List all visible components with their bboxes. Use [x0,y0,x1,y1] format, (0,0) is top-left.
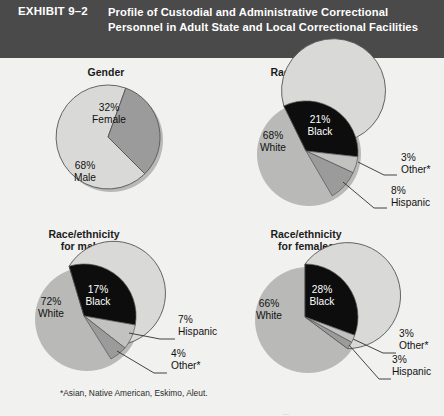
chart-race-females-title-line1: Race/ethnicity [240,228,372,240]
chart-race-males-pie [32,257,232,387]
label-other-name: Other* [401,164,430,176]
label-white-name: White [244,310,294,322]
chart-race-females: Race/ethnicity for females 66% White 28%… [240,228,440,393]
label-black-pct: 28% [298,284,346,296]
label-hispanic-pct: 7% [178,314,193,326]
label-white-pct: 68% [248,130,298,142]
label-other-pct: 3% [399,328,414,340]
label-male-pct: 68% [50,160,120,172]
label-female-pct: 32% [74,102,144,114]
label-female-name: Female [74,114,144,126]
label-other-name: Other* [171,360,200,372]
exhibit-header-band: EXHIBIT 9–2 Profile of Custodial and Adm… [0,0,444,58]
label-black-name: Black [298,296,346,308]
chart-race-males: Race/ethnicity for males 72% White 17% B… [18,228,218,388]
chart-race-males-title-line1: Race/ethnicity [18,228,150,240]
leader-line-hispanic [349,345,391,379]
label-black-pct: 21% [296,114,344,126]
label-hispanic-pct: 8% [391,185,406,197]
label-male-name: Male [50,172,120,184]
label-other-name: Other* [399,340,428,352]
chart-race-all: Race/ethnicity 68% White 21% Black 3% Ot… [240,66,440,226]
leader-line-other [358,162,397,175]
label-other-pct: 4% [171,348,186,360]
source-note-cropped: ... [283,406,443,415]
race-males-pie-svg [32,257,232,387]
label-other-pct: 3% [401,152,416,164]
label-hispanic-name: Hispanic [391,197,430,209]
exhibit-title: Profile of Custodial and Administrative … [108,5,438,34]
label-black-name: Black [296,126,344,138]
label-hispanic-name: Hispanic [178,326,217,338]
footnote-asterisk-note: *Asian, Native American, Eskimo, Aleut. [60,388,208,398]
label-white-name: White [26,308,76,320]
label-black-name: Black [74,296,122,308]
chart-gender: Gender 32% Female 68% Male [30,66,182,214]
label-hispanic-pct: 3% [392,354,407,366]
label-white-pct: 72% [26,296,76,308]
label-hispanic-name: Hispanic [392,366,431,378]
label-white-pct: 66% [244,298,294,310]
exhibit-number-label: EXHIBIT 9–2 [18,5,88,17]
label-black-pct: 17% [74,284,122,296]
label-white-name: White [248,142,298,154]
chart-gender-title: Gender [30,66,182,78]
